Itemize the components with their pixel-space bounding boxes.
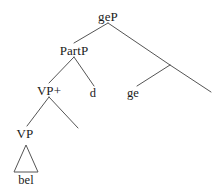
tree-edge-geP-to-right-branch (108, 23, 170, 65)
node-label-partp: PartP (60, 44, 89, 57)
tree-edges-svg (0, 0, 216, 189)
edge-group (27, 23, 211, 128)
node-label-d: d (90, 87, 96, 100)
bel-triangle (14, 145, 38, 172)
tree-edge-VPplus-to-empty (49, 97, 78, 128)
node-label-vp-plus: VP+ (37, 84, 61, 97)
node-label-vp: VP (17, 127, 34, 140)
tree-edge-geP-to-PartP (74, 23, 108, 43)
tree-edge-PartP-to-d (74, 57, 94, 86)
syntax-tree-figure: geP PartP VP+ d ge VP bel (0, 0, 216, 189)
tree-edge-right-branch-to-empty (170, 65, 211, 92)
tree-edge-PartP-to-VPplus (49, 57, 74, 83)
tree-edge-right-branch-to-ge (137, 65, 170, 86)
tree-edge-VPplus-to-VP (27, 97, 49, 126)
triangle-group (14, 145, 38, 172)
node-label-bel: bel (18, 174, 34, 187)
node-label-root: geP (98, 10, 118, 23)
node-label-ge: ge (127, 87, 139, 100)
